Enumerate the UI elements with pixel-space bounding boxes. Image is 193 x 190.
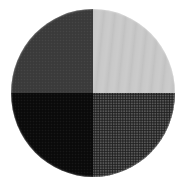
disc-quadrant-top-left	[11, 9, 93, 93]
disc-quadrant-bottom-right	[93, 93, 175, 177]
disc-quadrant-bottom-left	[11, 93, 93, 177]
quadrant-disc	[11, 9, 175, 177]
disc-quadrant-top-right	[93, 9, 175, 93]
figure-canvas	[0, 0, 193, 190]
